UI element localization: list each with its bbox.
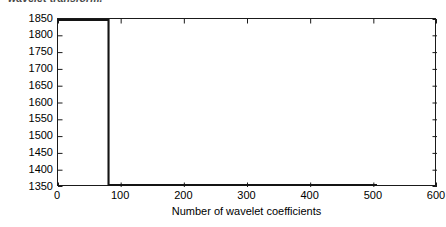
y-tick-label: 1750 [7, 46, 53, 57]
plot-area [57, 18, 436, 186]
x-tick-label: 100 [100, 190, 140, 201]
y-tick-label: 1550 [7, 113, 53, 124]
x-tick-label: 400 [290, 190, 330, 201]
plot-canvas [58, 19, 437, 187]
y-tick-label: 1450 [7, 147, 53, 158]
data-series-line [58, 20, 377, 185]
y-tick-label: 1800 [7, 29, 53, 40]
y-tick-label: 1700 [7, 63, 53, 74]
x-tick-label: 0 [37, 190, 77, 201]
x-axis-tick-labels: 0100200300400500600 [57, 190, 436, 204]
y-tick-label: 1850 [7, 13, 53, 24]
x-tick-label: 200 [163, 190, 203, 201]
clipped-caption-text: wavelet transform. [8, 0, 208, 4]
y-tick-label: 1650 [7, 80, 53, 91]
y-axis-tick-labels: 1350140014501500155016001650170017501800… [0, 18, 53, 186]
y-tick-label: 1400 [7, 164, 53, 175]
y-tick-label: 1500 [7, 130, 53, 141]
y-tick-label: 1600 [7, 97, 53, 108]
x-tick-label: 300 [227, 190, 267, 201]
x-tick-label: 500 [353, 190, 393, 201]
figure: wavelet transform. 135014001450150015501… [0, 0, 446, 227]
x-tick-label: 600 [416, 190, 446, 201]
axis-ticks [58, 19, 437, 187]
x-axis-title: Number of wavelet coefficients [57, 205, 436, 217]
